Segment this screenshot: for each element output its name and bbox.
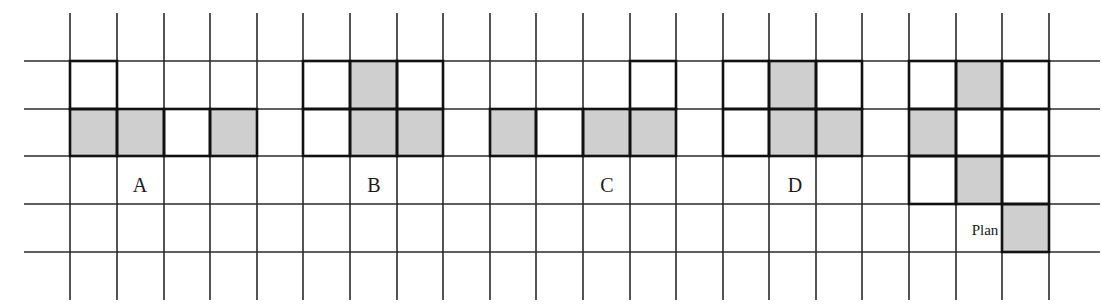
outlined-cell bbox=[630, 61, 676, 109]
label-layer: A B C D Plan bbox=[133, 174, 999, 238]
outlined-cell bbox=[1002, 156, 1049, 204]
outlined-cell bbox=[397, 61, 443, 109]
shaded-cell bbox=[956, 61, 1002, 109]
outlined-cell bbox=[70, 61, 117, 109]
outlined-cell bbox=[956, 109, 1002, 156]
shaded-cell bbox=[816, 109, 862, 156]
shaded-cell bbox=[956, 156, 1002, 204]
outlined-cell bbox=[1002, 61, 1049, 109]
outlined-cell bbox=[536, 109, 583, 156]
option-label-c: C bbox=[600, 174, 613, 196]
option-label-d: D bbox=[788, 174, 802, 196]
shaded-cell bbox=[490, 109, 536, 156]
outlined-cell bbox=[909, 156, 956, 204]
shaded-cell bbox=[210, 109, 257, 156]
shaded-cell bbox=[630, 109, 676, 156]
shaded-cell bbox=[769, 109, 816, 156]
outlined-cell bbox=[164, 109, 210, 156]
shaded-cell bbox=[583, 109, 630, 156]
shaded-cell bbox=[1002, 204, 1049, 252]
option-label-a: A bbox=[133, 174, 148, 196]
outlined-cell bbox=[723, 109, 769, 156]
outlined-cell bbox=[303, 61, 350, 109]
plan-label: Plan bbox=[972, 222, 999, 238]
outlined-cell bbox=[909, 61, 956, 109]
shaded-cell bbox=[117, 109, 164, 156]
outlined-cell bbox=[723, 61, 769, 109]
shaded-cell bbox=[70, 109, 117, 156]
outlined-cell bbox=[816, 61, 862, 109]
outlined-cell bbox=[303, 109, 350, 156]
shaded-cell bbox=[350, 109, 397, 156]
grid-figure: A B C D Plan bbox=[0, 0, 1102, 304]
shaded-cell bbox=[350, 61, 397, 109]
shaded-cell bbox=[909, 109, 956, 156]
shaded-cell bbox=[769, 61, 816, 109]
shaded-cell bbox=[397, 109, 443, 156]
outlined-cell bbox=[1002, 109, 1049, 156]
option-label-b: B bbox=[367, 174, 380, 196]
